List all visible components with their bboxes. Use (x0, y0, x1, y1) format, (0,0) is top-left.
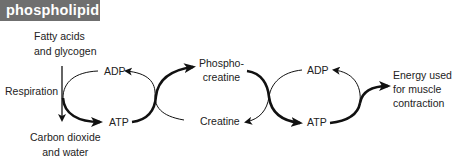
left-atp-label: ATP (109, 116, 129, 129)
adp-to-creatine-arc (246, 70, 302, 122)
right-cycle-thick-arc (330, 103, 360, 123)
energy-result-label: Energy used for muscle contraction (393, 69, 452, 110)
phosphocreatine-label: Phospho- creatine (199, 57, 244, 84)
energy-arrow (360, 86, 388, 103)
phosphocreatine-to-atp-arc (247, 71, 300, 123)
left-to-middle-thin-arc (155, 96, 184, 120)
inputs-label: Fatty acids and glycogen (34, 30, 96, 58)
left-cycle-thick-arc (63, 98, 100, 122)
atp-to-phosphocreatine-arc (132, 67, 193, 122)
outputs-label: Carbon dioxide and water (30, 131, 101, 159)
adp-return-arc (126, 71, 155, 96)
left-cycle-thin-arc (63, 71, 98, 98)
creatine-label: Creatine (200, 115, 240, 128)
respiration-label: Respiration (5, 85, 58, 98)
right-cycle-thin-arc (334, 70, 360, 103)
right-adp-label: ADP (307, 64, 329, 77)
left-adp-label: ADP (104, 65, 126, 78)
right-atp-label: ATP (307, 116, 327, 129)
